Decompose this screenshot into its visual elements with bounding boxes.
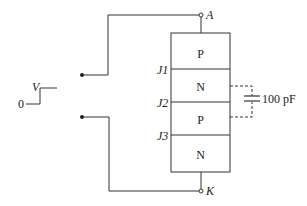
layer-n2: N <box>171 148 230 163</box>
anode-label: A <box>206 9 213 21</box>
junction-j2-label: J2 <box>157 97 168 109</box>
step-low-label: 0 <box>18 98 24 110</box>
thyristor-diagram: A K J1 J2 J3 P N P N 100 pF V 0 <box>0 0 307 206</box>
step-high-label: V <box>32 81 39 93</box>
circuit-lines <box>0 0 307 206</box>
capacitor-label: 100 pF <box>262 93 296 105</box>
input-terminal-bottom <box>80 115 84 119</box>
cathode-label: K <box>206 185 214 197</box>
junction-j1-label: J1 <box>157 64 168 76</box>
layer-n1: N <box>171 80 230 95</box>
layer-p1: P <box>171 47 230 62</box>
junction-j3-label: J3 <box>157 130 168 142</box>
input-terminal-top <box>80 73 84 77</box>
layer-p2: P <box>171 113 230 128</box>
